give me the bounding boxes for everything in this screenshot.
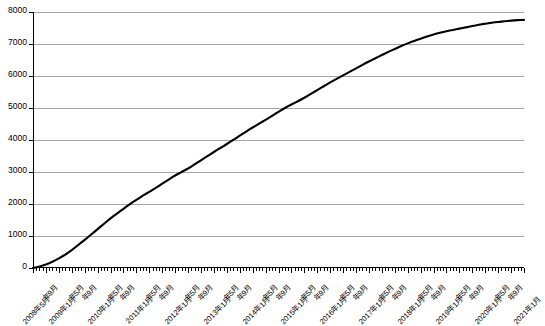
x-tick-mark — [291, 268, 292, 273]
x-tick-mark — [382, 268, 383, 273]
x-tick-mark — [456, 268, 457, 271]
x-tick-mark — [353, 268, 354, 271]
x-tick-mark — [359, 268, 360, 271]
y-axis-tick-label: 2000 — [8, 198, 27, 207]
x-tick-mark — [327, 268, 328, 271]
x-tick-mark — [266, 268, 267, 273]
x-tick-mark — [75, 268, 76, 271]
x-tick-mark — [204, 268, 205, 271]
x-tick-mark — [340, 268, 341, 271]
x-tick-mark — [495, 268, 496, 271]
x-tick-mark — [165, 268, 166, 271]
x-tick-mark — [285, 268, 286, 271]
x-tick-mark — [49, 268, 50, 271]
x-tick-mark — [243, 268, 244, 271]
y-axis-tick-label: 3000 — [8, 166, 27, 175]
x-tick-mark — [440, 268, 441, 271]
x-axis-tick-label-text: 2021年1月 — [512, 296, 542, 326]
x-tick-mark — [524, 268, 525, 273]
x-tick-mark — [308, 268, 309, 271]
x-tick-mark — [143, 268, 144, 271]
x-tick-mark — [230, 268, 231, 271]
x-tick-mark — [188, 268, 189, 273]
x-tick-mark — [175, 268, 176, 273]
x-tick-mark — [85, 268, 86, 273]
x-tick-mark — [401, 268, 402, 271]
x-tick-mark — [59, 268, 60, 273]
x-tick-mark — [120, 268, 121, 271]
x-tick-mark — [36, 268, 37, 271]
x-tick-mark — [463, 268, 464, 271]
x-tick-mark — [185, 268, 186, 271]
x-tick-mark — [78, 268, 79, 271]
x-tick-mark — [430, 268, 431, 271]
x-tick-mark — [421, 268, 422, 273]
x-tick-mark — [514, 268, 515, 271]
x-tick-mark — [518, 268, 519, 271]
x-tick-mark — [130, 268, 131, 271]
x-tick-mark — [375, 268, 376, 271]
x-tick-mark — [443, 268, 444, 271]
x-tick-mark — [62, 268, 63, 271]
x-tick-mark — [98, 268, 99, 273]
x-tick-mark — [388, 268, 389, 271]
x-tick-mark — [320, 268, 321, 271]
x-tick-mark — [385, 268, 386, 271]
x-tick-mark — [178, 268, 179, 271]
x-tick-mark — [369, 268, 370, 273]
x-tick-mark — [227, 268, 228, 273]
x-tick-mark — [366, 268, 367, 271]
x-tick-mark — [379, 268, 380, 271]
plot-area: 010002000300040005000600070008000 2008年5… — [33, 12, 524, 268]
data-series-line — [33, 12, 524, 268]
x-tick-mark — [224, 268, 225, 271]
x-tick-mark — [395, 268, 396, 273]
x-tick-mark — [298, 268, 299, 271]
x-tick-mark — [39, 268, 40, 271]
x-tick-mark — [104, 268, 105, 271]
x-tick-mark — [262, 268, 263, 271]
x-tick-mark — [91, 268, 92, 271]
x-tick-mark — [114, 268, 115, 271]
x-tick-mark — [249, 268, 250, 271]
x-tick-mark — [466, 268, 467, 271]
x-tick-mark — [111, 268, 112, 273]
x-tick-mark — [508, 268, 509, 271]
x-tick-mark — [485, 268, 486, 273]
x-tick-mark — [453, 268, 454, 271]
x-tick-mark — [450, 268, 451, 271]
x-tick-mark — [279, 268, 280, 273]
x-tick-mark — [52, 268, 53, 271]
x-tick-mark — [411, 268, 412, 271]
x-tick-mark — [69, 268, 70, 271]
x-tick-mark — [94, 268, 95, 271]
x-axis-tick-label: 2021年1月 — [534, 274, 545, 304]
x-tick-mark — [437, 268, 438, 271]
x-tick-mark — [211, 268, 212, 271]
x-tick-mark — [195, 268, 196, 271]
x-tick-mark — [282, 268, 283, 271]
x-tick-mark — [295, 268, 296, 271]
x-tick-mark — [153, 268, 154, 271]
x-tick-mark — [482, 268, 483, 271]
x-tick-mark — [459, 268, 460, 273]
x-tick-mark — [149, 268, 150, 273]
x-tick-mark — [133, 268, 134, 271]
y-axis-tick-label: 5000 — [8, 102, 27, 111]
x-tick-mark — [201, 268, 202, 273]
x-tick-mark — [256, 268, 257, 271]
x-tick-mark — [434, 268, 435, 273]
x-tick-mark — [301, 268, 302, 271]
x-tick-mark — [392, 268, 393, 271]
x-tick-mark — [427, 268, 428, 271]
x-tick-mark — [237, 268, 238, 271]
x-tick-mark — [233, 268, 234, 271]
x-tick-mark — [417, 268, 418, 271]
x-tick-mark — [72, 268, 73, 273]
x-tick-mark — [469, 268, 470, 271]
x-tick-mark — [246, 268, 247, 271]
x-tick-mark — [479, 268, 480, 271]
x-tick-mark — [159, 268, 160, 271]
x-tick-mark — [136, 268, 137, 273]
